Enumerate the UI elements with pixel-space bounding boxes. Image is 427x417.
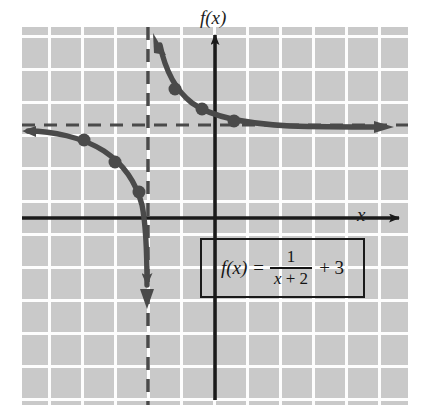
data-point (228, 115, 241, 128)
data-point (78, 134, 91, 147)
formula-lhs: f(x) (221, 257, 247, 279)
data-point (109, 156, 122, 169)
right-branch-curve (160, 45, 380, 127)
right-branch-right-arrowhead (374, 121, 394, 133)
left-branch-curve (28, 131, 147, 285)
left-branch-left-arrowhead (22, 126, 36, 137)
formula-box: f(x) = 1 x + 2 + 3 (200, 238, 365, 298)
x-axis-label: x (357, 205, 365, 224)
formula-addend: + 3 (316, 257, 344, 279)
left-branch-arrowhead (140, 289, 154, 309)
data-point (133, 186, 146, 199)
denominator-rest: + 2 (286, 269, 308, 288)
plot-area (22, 27, 408, 405)
fraction-denominator: x + 2 (270, 270, 312, 288)
formula-fraction: 1 x + 2 (270, 248, 312, 288)
data-point (196, 103, 209, 116)
y-axis-label: f(x) (200, 8, 226, 27)
graph-drawing (22, 27, 408, 405)
formula-expression: f(x) = 1 x + 2 + 3 (221, 248, 344, 288)
formula-equals: = (251, 257, 266, 279)
rational-function-figure: f(x) x f(x) = 1 x + 2 + 3 Graph of ratio… (0, 0, 427, 417)
fraction-numerator: 1 (282, 248, 301, 266)
figure-title: Graph of rational function f(x) = 1/(x+2… (0, 0, 1, 1)
data-point (169, 83, 182, 96)
denominator-variable: x (274, 269, 282, 288)
